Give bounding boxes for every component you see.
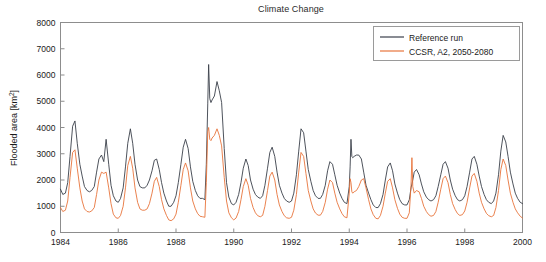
series-line-reference-run [61, 65, 523, 208]
chart-figure: Climate Change Flooded area [km2] 010002… [0, 0, 546, 262]
x-tick-label: 1988 [167, 237, 186, 247]
y-tick-labels: 010002000300040005000600070008000 [37, 18, 56, 238]
y-tick-label: 4000 [37, 123, 56, 133]
x-tick-label: 2000 [513, 237, 532, 247]
x-tick-label: 1998 [455, 237, 474, 247]
data-series-group [61, 65, 523, 221]
y-tick-label: 8000 [37, 18, 56, 28]
y-axis-title-tail: ] [9, 90, 19, 93]
x-tick-label: 1984 [51, 237, 70, 247]
y-tick-label: 5000 [37, 96, 56, 106]
legend-label-ccsr-a2: CCSR, A2, 2050-2080 [409, 47, 493, 57]
y-axis-title: Flooded area [km2] [8, 90, 19, 166]
x-tick-label: 1992 [282, 237, 301, 247]
series-line-ccsr-a2 [61, 128, 523, 221]
svg-text:Flooded area [km2]: Flooded area [km2] [8, 90, 19, 166]
x-tick-labels: 198419861988199019921994199619982000 [51, 237, 532, 247]
x-tick-label: 1994 [340, 237, 359, 247]
y-tick-label: 6000 [37, 70, 56, 80]
chart-plot-area: Flooded area [km2] 010002000300040005000… [0, 0, 546, 262]
x-tick-label: 1986 [109, 237, 128, 247]
y-tick-label: 1000 [37, 201, 56, 211]
x-tick-label: 1996 [398, 237, 417, 247]
y-axis-title-base: Flooded area [km [9, 96, 19, 166]
y-tick-label: 3000 [37, 149, 56, 159]
chart-legend[interactable]: Reference run CCSR, A2, 2050-2080 [374, 27, 520, 61]
x-tick-label: 1990 [224, 237, 243, 247]
y-tick-label: 7000 [37, 44, 56, 54]
y-tick-label: 2000 [37, 175, 56, 185]
legend-label-reference-run: Reference run [409, 33, 463, 43]
